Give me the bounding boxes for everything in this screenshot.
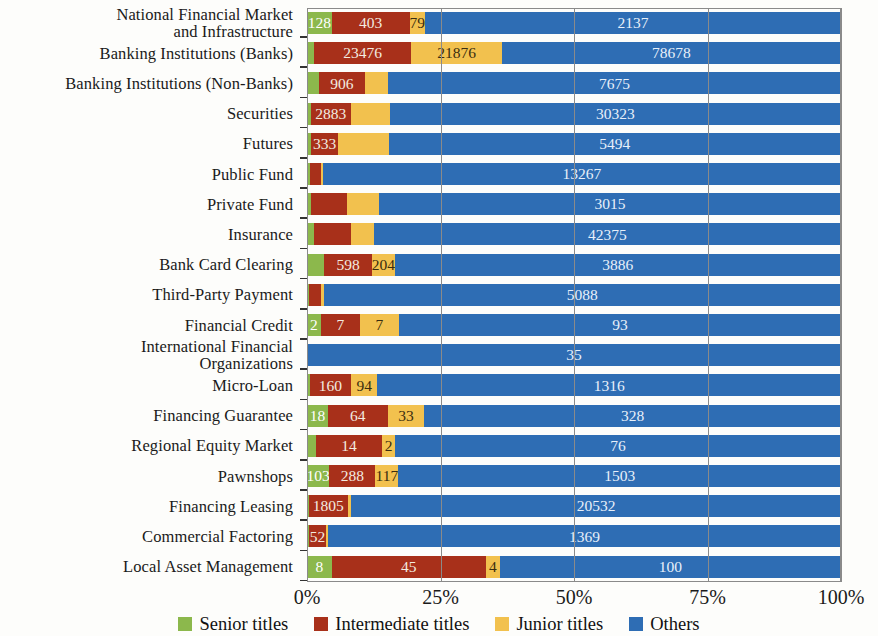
bar-segment-senior: 128: [307, 12, 332, 34]
gridline: [574, 8, 575, 582]
bar-segment-intermediate: 7: [321, 314, 360, 336]
legend-item-junior[interactable]: Junior titles: [495, 614, 603, 635]
bar-segment-intermediate: [311, 193, 346, 215]
category-label: Insurance: [0, 226, 300, 243]
chart-legend: Senior titlesIntermediate titlesJunior t…: [0, 612, 878, 636]
bar-segment-junior: 21876: [411, 42, 502, 64]
stacked-bar-chart: National Financial Market and Infrastruc…: [0, 0, 878, 636]
bar-segment-others: 1316: [377, 374, 841, 396]
legend-swatch-icon: [629, 617, 643, 631]
bar-segment-senior: [307, 254, 324, 276]
chart-row: Futures3335494: [0, 129, 878, 159]
bar-segment-intermediate: 64: [328, 405, 388, 427]
x-axis-tick-label: 50%: [556, 586, 593, 609]
y-axis-tick: [300, 97, 307, 99]
category-label: Commercial Factoring: [0, 528, 300, 545]
bar-segment-junior: [338, 133, 389, 155]
bar-segment-intermediate: [309, 284, 321, 306]
y-axis-tick: [300, 399, 307, 401]
bar-segment-others: 1503: [398, 465, 841, 487]
bar-segment-intermediate: 45: [332, 556, 486, 578]
category-label: Bank Card Clearing: [0, 256, 300, 273]
chart-row: Securities288330323: [0, 99, 878, 129]
bar-segment-others: 76: [395, 435, 841, 457]
gridline: [841, 8, 842, 582]
chart-row: International Financial Organizations35: [0, 340, 878, 370]
bar-segment-junior: [351, 103, 390, 125]
category-label: Banking Institutions (Banks): [0, 45, 300, 62]
y-axis-tick: [300, 127, 307, 129]
y-axis-tick: [300, 519, 307, 521]
bar-segment-others: 42375: [374, 223, 841, 245]
category-label: Financing Guarantee: [0, 407, 300, 424]
y-axis-tick: [300, 278, 307, 280]
category-label: Private Fund: [0, 196, 300, 213]
category-label: Futures: [0, 135, 300, 152]
chart-row: Financing Leasing180520532: [0, 491, 878, 521]
y-axis-tick: [300, 429, 307, 431]
category-label: Pawnshops: [0, 468, 300, 485]
bar-segment-junior: 79: [410, 12, 425, 34]
gridline: [708, 8, 709, 582]
y-axis-tick: [300, 66, 307, 68]
bar-segment-others: 1369: [328, 525, 841, 547]
legend-label: Junior titles: [516, 614, 603, 635]
y-axis-tick: [300, 489, 307, 491]
category-label: Securities: [0, 105, 300, 122]
chart-row: Banking Institutions (Banks)234762187678…: [0, 38, 878, 68]
bar-segment-intermediate: 333: [311, 133, 338, 155]
category-label: Financing Leasing: [0, 498, 300, 515]
bar-segment-others: 20532: [351, 495, 841, 517]
bar-segment-others: 3015: [379, 193, 841, 215]
bar-segment-junior: 7: [360, 314, 399, 336]
bar-segment-others: 328: [424, 405, 841, 427]
legend-item-intermediate[interactable]: Intermediate titles: [314, 614, 469, 635]
gridline: [307, 8, 308, 582]
bar-segment-junior: [351, 223, 374, 245]
bar-segment-others: 2137: [425, 12, 841, 34]
bar-segment-others: 7675: [388, 72, 841, 94]
x-axis-tick-label: 75%: [689, 586, 726, 609]
x-axis-tick-label: 25%: [422, 586, 459, 609]
bar-segment-intermediate: 160: [310, 374, 351, 396]
bar-segment-intermediate: 1805: [309, 495, 349, 517]
chart-row: Micro-Loan160941316: [0, 370, 878, 400]
chart-row: Financing Guarantee186433328: [0, 401, 878, 431]
chart-row: Insurance42375: [0, 219, 878, 249]
category-label: Banking Institutions (Non-Banks): [0, 75, 300, 92]
bar-segment-junior: 4: [486, 556, 500, 578]
legend-item-senior[interactable]: Senior titles: [178, 614, 288, 635]
legend-label: Others: [650, 614, 699, 635]
y-axis-tick: [300, 338, 307, 340]
bar-segment-senior: 18: [307, 405, 328, 427]
category-label: Regional Equity Market: [0, 437, 300, 454]
chart-row: Regional Equity Market14276: [0, 431, 878, 461]
chart-row: Bank Card Clearing5982043886: [0, 250, 878, 280]
bar-segment-intermediate: 14: [316, 435, 383, 457]
y-axis-tick: [300, 248, 307, 250]
y-axis-tick: [300, 308, 307, 310]
legend-item-others[interactable]: Others: [629, 614, 699, 635]
bar-segment-intermediate: 403: [332, 12, 410, 34]
bar-segment-intermediate: 288: [329, 465, 375, 487]
bar-segment-intermediate: [314, 223, 350, 245]
bar-segment-others: 5088: [324, 284, 841, 306]
gridline: [441, 8, 442, 582]
bar-segment-intermediate: 23476: [314, 42, 411, 64]
category-label: Public Fund: [0, 166, 300, 183]
chart-row: Pawnshops1032881171503: [0, 461, 878, 491]
y-axis-tick: [300, 580, 307, 582]
bar-segment-senior: 103: [307, 465, 329, 487]
chart-row: Third-Party Payment5088: [0, 280, 878, 310]
bar-segment-intermediate: 52: [309, 525, 327, 547]
bar-segment-senior: 2: [307, 314, 321, 336]
bar-segment-junior: [365, 72, 388, 94]
x-axis-labels: 0%25%50%75%100%: [0, 586, 878, 612]
bar-segment-others: 5494: [389, 133, 841, 155]
category-label: International Financial Organizations: [0, 338, 300, 372]
legend-label: Intermediate titles: [335, 614, 469, 635]
x-axis-tick-label: 100%: [818, 586, 865, 609]
y-axis-tick: [300, 459, 307, 461]
bar-segment-others: 78678: [502, 42, 841, 64]
chart-row: National Financial Market and Infrastruc…: [0, 8, 878, 38]
